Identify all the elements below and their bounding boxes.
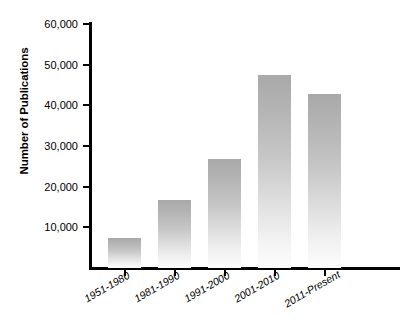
x-category-label: 1951-1980 — [82, 269, 131, 305]
y-tick-mark — [83, 186, 89, 188]
bar — [158, 200, 191, 268]
x-category-label: 1991-2000 — [182, 269, 231, 305]
bar — [308, 94, 341, 268]
y-tick-label: 50,000 — [8, 60, 78, 71]
y-tick-mark — [83, 104, 89, 106]
y-tick-mark — [83, 64, 89, 66]
y-tick-label: 10,000 — [8, 222, 78, 233]
y-tick-label: 40,000 — [8, 100, 78, 111]
y-axis-line — [89, 22, 92, 270]
x-category-label: 2011-Present — [282, 268, 342, 310]
y-tick-mark — [83, 226, 89, 228]
bar — [208, 159, 241, 268]
y-tick-label: 20,000 — [8, 182, 78, 193]
y-tick-label: 30,000 — [8, 141, 78, 152]
y-tick-mark — [83, 23, 89, 25]
bar — [108, 238, 141, 269]
y-tick-mark — [83, 145, 89, 147]
x-category-label: 1981-1990 — [132, 269, 181, 305]
bar — [258, 75, 291, 268]
y-tick-label: 60,000 — [8, 19, 78, 30]
publications-bar-chart: Number of Publications 10,00020,00030,00… — [0, 0, 410, 329]
x-category-label: 2001-2010 — [232, 269, 281, 305]
